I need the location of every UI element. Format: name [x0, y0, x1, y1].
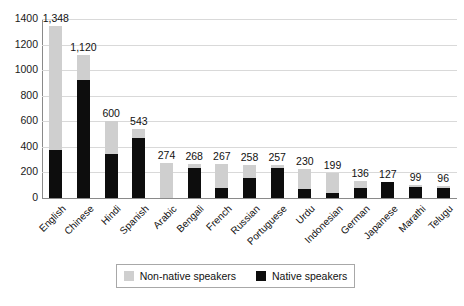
legend-swatch-icon: [256, 271, 266, 281]
bar-total-label: 258: [241, 152, 259, 163]
x-axis-category-label: Telugu: [426, 203, 455, 232]
legend-item: Native speakers: [256, 271, 347, 282]
bar-stack: [160, 163, 173, 198]
bar-total-label: 127: [379, 169, 397, 180]
y-axis-tick-label: 1400: [0, 13, 38, 23]
bar-total-label: 274: [158, 150, 176, 161]
bar-segment-native: [409, 187, 422, 198]
y-axis-tick-label: 800: [0, 90, 38, 100]
chart-legend: Non-native speakersNative speakers: [116, 264, 355, 288]
bar-segment-non-native: [132, 129, 145, 138]
bar-total-label: 257: [268, 152, 286, 163]
bar-stack: [381, 182, 394, 198]
legend-label: Non-native speakers: [140, 271, 236, 282]
bar-segment-native: [188, 168, 201, 198]
bar-total-label: 1,120: [70, 42, 96, 53]
y-axis-tick-label: 200: [0, 166, 38, 176]
bar-total-label: 199: [324, 160, 342, 171]
x-axis-labels: EnglishChineseHindiSpanishArabicBengaliF…: [42, 200, 457, 256]
bar-segment-native: [215, 188, 228, 198]
bar-group: 136: [354, 19, 367, 198]
bar-stack: [49, 26, 62, 198]
bar-stack: [271, 165, 284, 198]
bar-stack: [298, 169, 311, 198]
bar-stack: [354, 181, 367, 198]
bar-stack: [326, 173, 339, 198]
legend-item: Non-native speakers: [124, 271, 236, 282]
bar-group: 543: [132, 19, 145, 198]
x-axis-category-label: Chinese: [62, 203, 96, 237]
bar-total-label: 136: [351, 168, 369, 179]
bar-total-label: 96: [437, 173, 449, 184]
bar-segment-native: [132, 138, 145, 198]
bar-total-label: 267: [213, 151, 231, 162]
bar-group: 274: [160, 19, 173, 198]
bar-group: 1,120: [77, 19, 90, 198]
bar-segment-non-native: [326, 173, 339, 193]
y-axis-tick-label: 0: [0, 192, 38, 202]
bar-group: 1,348: [49, 19, 62, 198]
bar-group: 230: [298, 19, 311, 198]
bar-segment-native: [354, 188, 367, 198]
bar-segment-native: [381, 182, 394, 198]
bar-stack: [409, 185, 422, 198]
bar-segment-non-native: [354, 181, 367, 189]
bar-segment-non-native: [77, 55, 90, 80]
bar-group: 267: [215, 19, 228, 198]
bar-group: 99: [409, 19, 422, 198]
y-axis-tick-label: 1000: [0, 64, 38, 74]
bar-stack: [77, 55, 90, 198]
bar-group: 96: [437, 19, 450, 198]
bar-group: 600: [105, 19, 118, 198]
bar-total-label: 543: [130, 116, 148, 127]
bar-stack: [188, 164, 201, 198]
y-axis: 0200400600800100012001400: [0, 0, 38, 306]
bar-segment-native: [77, 80, 90, 198]
legend-label: Native speakers: [272, 271, 347, 282]
bar-total-label: 99: [410, 172, 422, 183]
bar-segment-non-native: [160, 163, 173, 198]
bar-segment-native: [243, 178, 256, 198]
bar-segment-non-native: [298, 169, 311, 189]
bar-group: 258: [243, 19, 256, 198]
bar-stack: [105, 121, 118, 198]
bar-total-label: 1,348: [43, 13, 69, 24]
bar-stack: [243, 165, 256, 198]
y-axis-tick-label: 1200: [0, 39, 38, 49]
bar-segment-native: [105, 154, 118, 198]
bar-segment-non-native: [105, 121, 118, 154]
bar-total-label: 230: [296, 156, 314, 167]
legend-swatch-icon: [124, 271, 134, 281]
y-axis-tick-label: 600: [0, 115, 38, 125]
bar-stack: [132, 129, 145, 198]
x-axis-line: [42, 198, 457, 199]
bar-series-container: 1,3481,120600543274268267258257230199136…: [42, 19, 457, 198]
bar-segment-native: [326, 193, 339, 198]
x-axis-category-label: Marathi: [396, 203, 427, 234]
bar-segment-native: [271, 168, 284, 198]
x-axis-category-label: Bengali: [175, 203, 206, 234]
y-axis-tick-label: 400: [0, 141, 38, 151]
x-axis-category-label: Urdu: [293, 203, 316, 226]
bar-total-label: 268: [185, 151, 203, 162]
bar-total-label: 600: [102, 108, 120, 119]
bar-segment-non-native: [243, 165, 256, 178]
bar-segment-native: [49, 150, 62, 198]
speakers-by-language-chart: 0200400600800100012001400 1,3481,1206005…: [0, 0, 464, 306]
bar-segment-non-native: [215, 164, 228, 188]
x-axis-category-label: Spanish: [117, 203, 150, 236]
bar-group: 127: [381, 19, 394, 198]
bar-group: 257: [271, 19, 284, 198]
x-axis-category-label: Hindi: [99, 203, 123, 227]
bar-segment-non-native: [49, 26, 62, 151]
bar-segment-native: [437, 188, 450, 198]
bar-stack: [215, 164, 228, 198]
bar-stack: [437, 186, 450, 198]
bar-group: 268: [188, 19, 201, 198]
bar-segment-native: [298, 189, 311, 198]
bar-group: 199: [326, 19, 339, 198]
